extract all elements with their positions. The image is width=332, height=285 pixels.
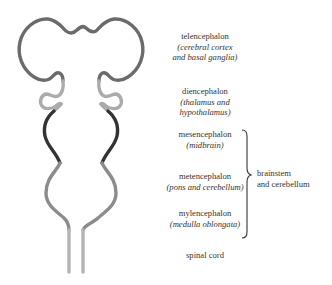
label-metencephalon: metencephalon (pons and cerebellum) [150,171,260,192]
region-name: mylencephalon [179,208,232,218]
region-sub: (pons and cerebellum) [150,182,260,193]
region-sub: and basal ganglia) [160,52,250,63]
label-mesencephalon: mesencephalon (midbrain) [160,129,250,150]
region-name: mesencephalon [179,129,232,139]
region-sub: (medulla oblongata) [150,219,260,230]
metencephalon-right [83,163,116,230]
telencephalon-outline [19,19,143,81]
region-sub: hypothalamus) [160,107,250,118]
region-name: metencephalon [179,171,231,181]
label-spinal-cord: spinal cord [160,250,250,261]
group-line-2: and cerebellum [257,179,310,190]
mesencephalon-right [102,111,118,163]
metencephalon-left [46,163,69,230]
label-mylencephalon: mylencephalon (medulla oblongata) [150,208,260,229]
region-sub: (midbrain) [160,140,250,151]
region-name: diencephalon [182,86,228,96]
region-sub: (thalamus and [160,97,250,108]
region-sub: (cerebral cortex [160,42,250,53]
region-name: telencephalon [181,31,229,41]
region-name: spinal cord [186,250,224,260]
label-brainstem-group: brainstem and cerebellum [257,168,310,189]
group-line-1: brainstem [257,168,310,179]
label-telencephalon: telencephalon (cerebral cortex and basal… [160,31,250,63]
label-diencephalon: diencephalon (thalamus and hypothalamus) [160,86,250,118]
mesencephalon-left [44,111,60,163]
